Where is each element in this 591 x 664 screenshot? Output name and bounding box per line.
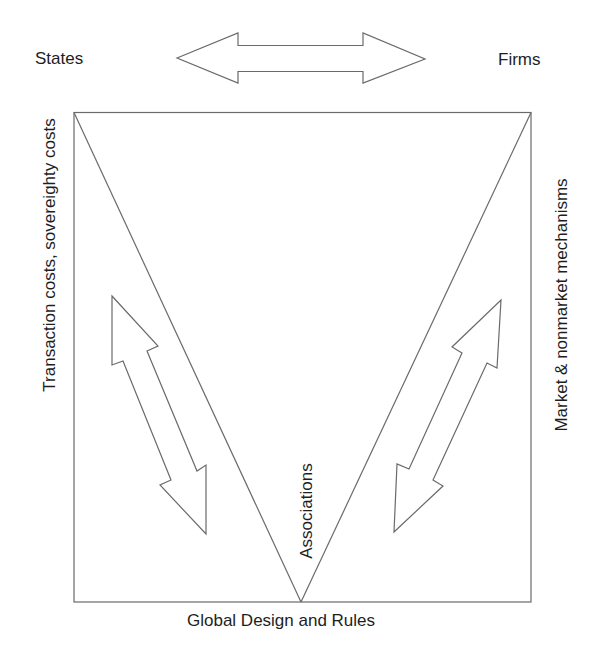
- edge-label-transaction-costs: Transaction costs, sovereighty costs: [40, 118, 60, 391]
- apex-label-associations: Associations: [297, 463, 317, 558]
- double-arrow-left-diagonal-icon: [112, 296, 206, 534]
- double-arrow-right-diagonal-icon: [394, 300, 501, 532]
- triangle-left-edge: [74, 113, 301, 603]
- edge-label-market-mechanisms: Market & nonmarket mechanisms: [552, 178, 572, 431]
- corner-label-states: States: [35, 49, 83, 69]
- corner-label-firms: Firms: [498, 50, 540, 70]
- corner-label-global-design: Global Design and Rules: [187, 611, 375, 631]
- double-arrow-horizontal-icon: [177, 33, 425, 83]
- diagram-canvas: [0, 0, 591, 664]
